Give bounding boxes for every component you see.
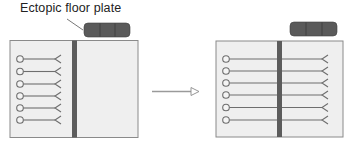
panel-before bbox=[10, 41, 138, 138]
leader-line bbox=[67, 19, 83, 30]
diagram-canvas bbox=[0, 0, 345, 145]
floor-plate-right bbox=[290, 22, 337, 36]
panel-after bbox=[216, 41, 343, 137]
midline-right bbox=[277, 41, 282, 137]
floor-plate-left bbox=[84, 23, 130, 37]
midline-left bbox=[72, 41, 77, 138]
transition-arrow-icon bbox=[152, 88, 199, 96]
